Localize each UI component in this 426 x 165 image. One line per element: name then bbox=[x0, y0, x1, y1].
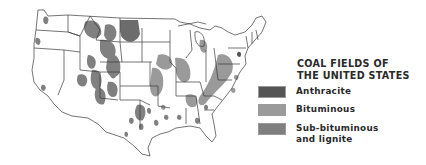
legend-label-subbituminous-block: Sub-bituminous and lignite bbox=[286, 123, 379, 144]
legend-label-subbituminous: Sub-bituminous bbox=[296, 123, 379, 134]
map-legend: COAL FIELDS OF THE UNITED STATES Anthrac… bbox=[288, 58, 426, 81]
subbituminous-swatch bbox=[258, 123, 286, 135]
legend-label-bituminous: Bituminous bbox=[296, 104, 355, 115]
bituminous-swatch bbox=[258, 104, 286, 116]
anthracite-swatch bbox=[258, 86, 286, 98]
legend-title-line2: THE UNITED STATES bbox=[297, 70, 426, 82]
lignite-dakota bbox=[120, 20, 140, 42]
legend-item-subbituminous: Sub-bituminous and lignite bbox=[258, 123, 379, 144]
state-boundaries bbox=[32, 10, 266, 156]
bituminous-fields bbox=[150, 40, 238, 110]
legend-item-bituminous: Bituminous bbox=[258, 104, 355, 116]
legend-label-lignite: and lignite bbox=[296, 134, 379, 145]
legend-label-anthracite: Anthracite bbox=[296, 86, 351, 97]
legend-item-anthracite: Anthracite bbox=[258, 86, 351, 98]
legend-title-line1: COAL FIELDS OF bbox=[297, 58, 426, 70]
anthracite-fields bbox=[237, 52, 241, 57]
